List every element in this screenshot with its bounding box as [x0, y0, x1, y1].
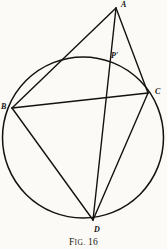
segment-ad — [93, 8, 116, 220]
point-label-c: C — [155, 88, 160, 96]
circumscribed-circle — [3, 57, 164, 218]
segment-ab — [12, 8, 116, 108]
segment-bd — [12, 108, 93, 220]
segment-ac — [116, 8, 148, 93]
point-label-d: D — [94, 226, 100, 234]
point-label-a: A — [121, 1, 126, 9]
point-label-b: B — [1, 103, 6, 111]
geometry-diagram — [0, 0, 167, 249]
figure-container: A B C D P' FIG. 16 — [0, 0, 167, 249]
segment-bc — [12, 93, 148, 108]
point-label-p-prime: P' — [111, 52, 118, 60]
segment-cd — [93, 93, 148, 220]
caption-smallcaps: IG. — [75, 238, 86, 247]
caption-number: 16 — [88, 237, 98, 247]
figure-caption: FIG. 16 — [0, 237, 167, 247]
